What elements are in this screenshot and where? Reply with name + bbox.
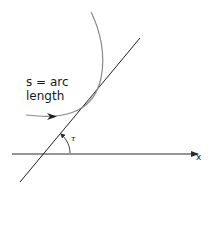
arc-length-label-line1: s = arc xyxy=(26,75,69,89)
arc-length-label-line2: length xyxy=(26,89,69,103)
tangent-line xyxy=(20,38,140,182)
arc-length-label: s = arc length xyxy=(26,75,69,103)
angle-tau-label: τ xyxy=(71,134,75,143)
x-axis-label: x xyxy=(196,152,201,162)
angle-arc xyxy=(62,135,70,153)
